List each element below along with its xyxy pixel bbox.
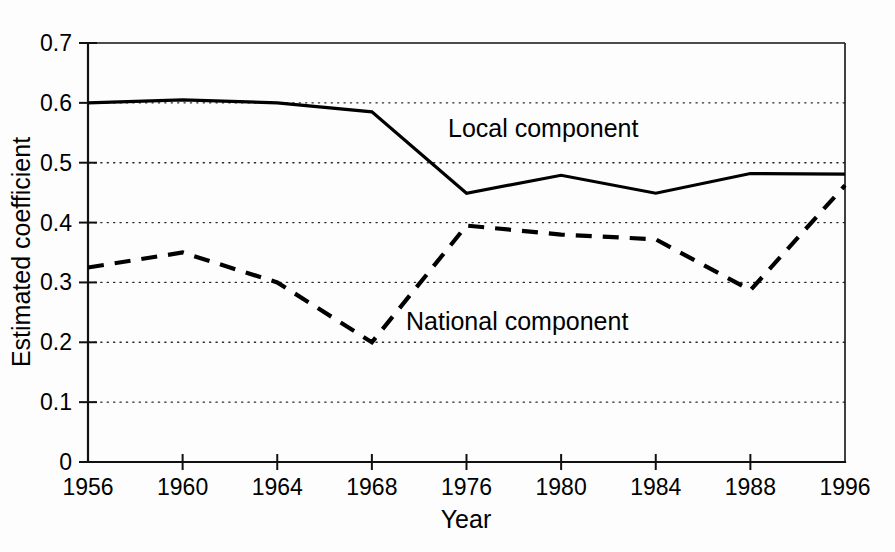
y-tick-label: 0.1 — [40, 389, 72, 415]
y-tick-label: 0.3 — [40, 269, 72, 295]
y-axis-title: Estimated coefficient — [7, 137, 35, 367]
x-tick-label: 1976 — [441, 474, 492, 500]
y-tick-label: 0 — [59, 449, 72, 475]
series-label-national-component: National component — [406, 307, 628, 335]
x-tick-label: 1968 — [346, 474, 397, 500]
gridline-group — [88, 103, 845, 402]
line-chart: 00.10.20.30.40.50.60.7 19561960196419681… — [0, 0, 895, 552]
x-tick-label: 1980 — [536, 474, 587, 500]
plot-frame — [88, 43, 845, 462]
y-tick-label: 0.7 — [40, 30, 72, 56]
chart-figure: 00.10.20.30.40.50.60.7 19561960196419681… — [0, 0, 895, 552]
y-tick-label: 0.2 — [40, 329, 72, 355]
y-tick-label: 0.6 — [40, 90, 72, 116]
x-tick-label: 1988 — [725, 474, 776, 500]
x-tick-label: 1984 — [630, 474, 681, 500]
x-tick-label: 1960 — [157, 474, 208, 500]
y-tick-label: 0.5 — [40, 150, 72, 176]
x-axis-title: Year — [441, 505, 492, 533]
x-tick-label: 1996 — [819, 474, 870, 500]
y-tick-label: 0.4 — [40, 210, 72, 236]
x-tick-label: 1956 — [62, 474, 113, 500]
x-tick-label: 1964 — [252, 474, 303, 500]
series-label-local-component: Local component — [448, 114, 638, 142]
